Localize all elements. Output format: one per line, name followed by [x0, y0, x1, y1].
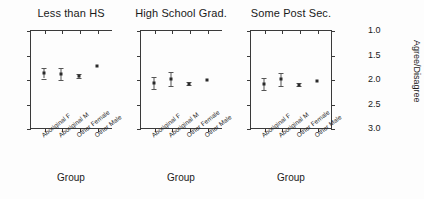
- y-tick: [247, 129, 251, 130]
- y-tick: [27, 31, 31, 32]
- x-tick-top: [155, 30, 156, 34]
- y-tick: [247, 105, 251, 106]
- y-tick: [137, 129, 141, 130]
- y-tick: [137, 80, 141, 81]
- data-point: [152, 81, 155, 84]
- error-bar-cap: [59, 80, 64, 81]
- y-tick: [27, 56, 31, 57]
- chart-figure: Less than HS Group Aboriginal FAborigina…: [0, 0, 424, 199]
- x-tick-top: [190, 30, 191, 34]
- data-point: [42, 72, 45, 75]
- y-tick-right: [331, 105, 335, 106]
- data-point: [298, 83, 301, 86]
- y-tick-label: 1.5: [368, 50, 381, 60]
- data-point: [262, 82, 265, 85]
- y-axis-title: Agree/Disagree: [412, 40, 422, 103]
- data-point: [188, 82, 191, 85]
- panel-some-post-sec: Some Post Sec. Group Aboriginal FAborigi…: [220, 0, 362, 199]
- data-point: [316, 80, 319, 83]
- data-point: [206, 79, 209, 82]
- error-bar-cap: [169, 86, 174, 87]
- y-tick-right: [331, 31, 335, 32]
- y-tick: [137, 105, 141, 106]
- y-tick-label: 2.5: [368, 99, 381, 109]
- y-tick: [27, 80, 31, 81]
- x-axis-title: Group: [220, 172, 362, 183]
- error-bar-cap: [41, 79, 46, 80]
- data-point: [78, 74, 81, 77]
- error-bar-cap: [77, 78, 82, 79]
- data-point: [170, 78, 173, 81]
- x-tick-top: [62, 30, 63, 34]
- error-bar-cap: [41, 68, 46, 69]
- x-tick-top: [318, 30, 319, 34]
- error-bar-cap: [279, 86, 284, 87]
- error-bar-cap: [261, 78, 266, 79]
- error-bar-cap: [261, 90, 266, 91]
- data-point: [280, 78, 283, 81]
- error-bar-cap: [297, 86, 302, 87]
- y-tick-right: [331, 129, 335, 130]
- x-tick-top: [45, 30, 46, 34]
- y-tick: [247, 31, 251, 32]
- x-tick-top: [172, 30, 173, 34]
- y-tick-label: 1.0: [368, 25, 381, 35]
- error-bar-cap: [59, 68, 64, 69]
- y-tick-label: 2.0: [368, 74, 381, 84]
- x-tick-top: [265, 30, 266, 34]
- y-tick-right: [331, 56, 335, 57]
- error-bar-cap: [279, 73, 284, 74]
- x-tick-top: [300, 30, 301, 34]
- data-point: [96, 65, 99, 68]
- error-bar-cap: [169, 72, 174, 73]
- y-tick: [137, 31, 141, 32]
- y-tick: [247, 56, 251, 57]
- panel-title: Some Post Sec.: [220, 7, 362, 19]
- x-tick-top: [282, 30, 283, 34]
- x-tick-top: [98, 30, 99, 34]
- y-tick: [247, 80, 251, 81]
- x-tick-top: [208, 30, 209, 34]
- x-tick-top: [80, 30, 81, 34]
- y-tick: [27, 105, 31, 106]
- y-tick-right: [331, 80, 335, 81]
- error-bar-cap: [151, 77, 156, 78]
- data-point: [60, 73, 63, 76]
- error-bar-cap: [151, 89, 156, 90]
- y-tick-label: 3.0: [368, 123, 381, 133]
- y-tick: [137, 56, 141, 57]
- y-axis: Agree/Disagree 1.01.52.02.53.0: [362, 0, 424, 199]
- error-bar-cap: [187, 85, 192, 86]
- y-tick: [27, 129, 31, 130]
